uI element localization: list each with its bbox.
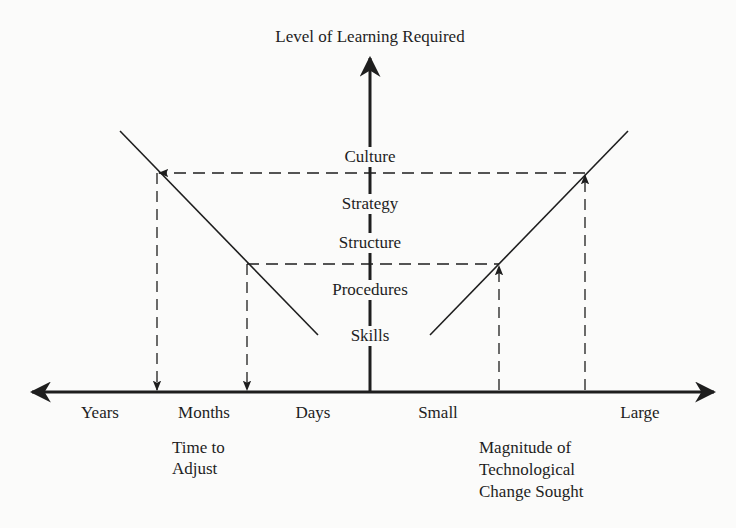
- time-to-adjust-line: [120, 131, 318, 335]
- level-label-structure: Structure: [337, 233, 403, 253]
- diagram-graphics: [0, 0, 736, 528]
- diagram-canvas: Level of Learning Required Culture Strat…: [0, 0, 736, 528]
- time-to-adjust-title-line2: Adjust: [172, 459, 217, 479]
- tick-label-months: Months: [178, 403, 230, 423]
- magnitude-title-line3: Change Sought: [479, 482, 583, 502]
- magnitude-of-change-line: [430, 131, 628, 335]
- level-label-strategy: Strategy: [340, 194, 401, 214]
- level-label-procedures: Procedures: [330, 280, 410, 300]
- magnitude-title-line2: Technological: [479, 460, 575, 480]
- time-to-adjust-title-line1: Time to: [172, 438, 225, 458]
- tick-label-days: Days: [296, 403, 331, 423]
- level-label-culture: Culture: [343, 147, 398, 167]
- tick-label-large: Large: [620, 403, 659, 423]
- magnitude-title-line1: Magnitude of: [479, 438, 571, 458]
- tick-label-small: Small: [418, 403, 458, 423]
- vertical-axis-title: Level of Learning Required: [275, 27, 464, 47]
- level-label-skills: Skills: [349, 326, 392, 346]
- tick-label-years: Years: [81, 403, 119, 423]
